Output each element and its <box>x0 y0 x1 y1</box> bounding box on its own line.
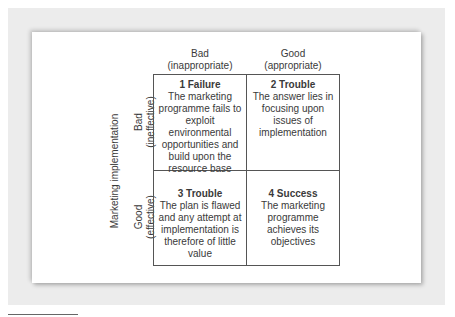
row-axis-title: Marketing implementation <box>109 111 121 231</box>
cell-body: The answer lies in focusing upon issues … <box>247 91 339 139</box>
cell-trouble-plan: 3 Trouble The plan is flawed and any att… <box>154 171 247 265</box>
cell-body: The marketing programme achieves its obj… <box>247 200 339 248</box>
cell-title: 2 Trouble <box>247 79 339 91</box>
cell-title: 1 Failure <box>154 79 246 91</box>
cell-failure: 1 Failure The marketing programme fails … <box>154 75 247 171</box>
cell-body: The marketing programme fails to exploit… <box>154 91 246 175</box>
column-header-sub: (appropriate) <box>246 60 340 72</box>
column-header-sub: (inappropriate) <box>153 60 247 72</box>
column-header-bad: Bad (inappropriate) <box>153 48 247 72</box>
column-header-good: Good (appropriate) <box>246 48 340 72</box>
footer-rule <box>8 314 78 315</box>
row-header-label: Good <box>133 172 145 262</box>
cell-body: The plan is flawed and any attempt at im… <box>154 200 246 260</box>
column-header-label: Bad <box>153 48 247 60</box>
row-header-label: Bad <box>133 77 145 167</box>
column-header-label: Good <box>246 48 340 60</box>
cell-trouble-implementation: 2 Trouble The answer lies in focusing up… <box>247 75 339 171</box>
cell-title: 3 Trouble <box>154 188 246 200</box>
cell-success: 4 Success The marketing programme achiev… <box>247 171 339 265</box>
matrix-grid: 1 Failure The marketing programme fails … <box>153 74 340 266</box>
cell-title: 4 Success <box>247 188 339 200</box>
